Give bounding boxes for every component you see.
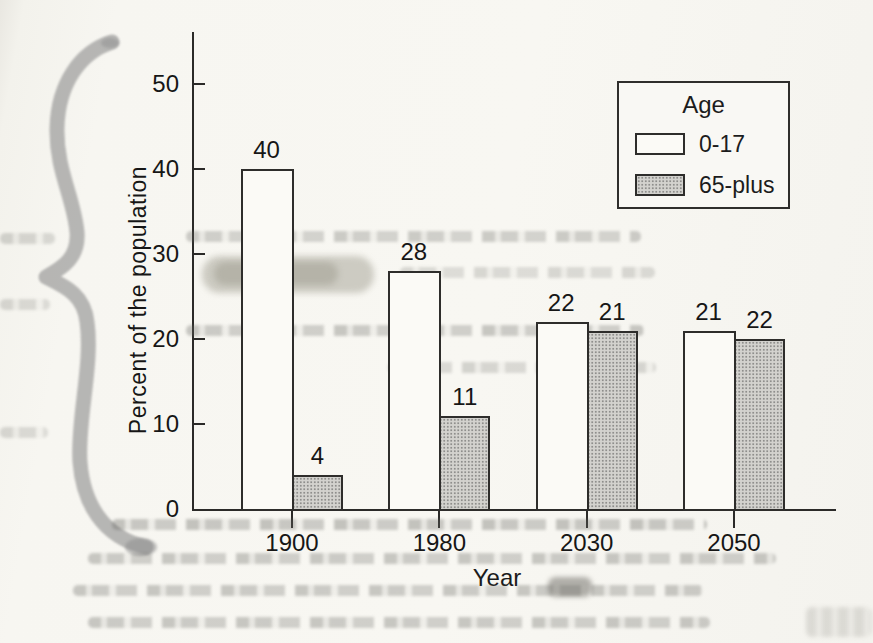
x-tick-1900 (291, 511, 293, 528)
y-tick-label-0: 0 (131, 495, 179, 523)
x-category-label-2030: 2030 (527, 529, 647, 557)
legend-label-0-17: 0-17 (699, 131, 745, 158)
bar-0-17-2050 (683, 331, 736, 512)
y-tick-20 (193, 338, 205, 340)
dark-smudge (548, 577, 592, 597)
y-tick-40 (193, 168, 205, 170)
x-category-label-1900: 1900 (232, 529, 352, 557)
bar-0-17-1980 (388, 271, 441, 511)
legend-swatch-0-17 (635, 133, 685, 155)
bar-65-plus-2030 (585, 331, 638, 512)
bar-65-plus-2050 (732, 339, 785, 511)
bar-value-label-65-plus-1980: 11 (435, 383, 495, 411)
bar-0-17-1900 (241, 169, 294, 511)
legend-entry-0-17: 0-17 (635, 133, 788, 155)
y-axis-title: Percent of the population (125, 166, 152, 434)
bottom-right-bleedthrough-blob (806, 607, 872, 637)
bar-value-label-0-17-1980: 28 (384, 238, 444, 266)
bar-0-17-2030 (536, 322, 589, 511)
x-tick-1980 (438, 511, 440, 528)
x-category-label-2050: 2050 (674, 529, 794, 557)
x-tick-2030 (586, 511, 588, 528)
bar-65-plus-1980 (437, 416, 490, 512)
y-tick-label-50: 50 (131, 70, 179, 98)
x-tick-2050 (733, 511, 735, 528)
legend-title: Age (619, 91, 788, 119)
bar-65-plus-1900 (290, 475, 343, 511)
y-tick-30 (193, 253, 205, 255)
y-tick-50 (193, 83, 205, 85)
bar-value-label-65-plus-2050: 22 (729, 306, 789, 334)
legend-swatch-65-plus (635, 174, 685, 196)
legend: Age 0-17 65-plus (617, 81, 790, 209)
bar-value-label-65-plus-2030: 21 (582, 298, 642, 326)
x-axis-title: Year (437, 564, 557, 592)
y-tick-10 (193, 423, 205, 425)
legend-label-65-plus: 65-plus (699, 172, 774, 199)
legend-entry-65-plus: 65-plus (635, 174, 788, 196)
bar-value-label-0-17-1900: 40 (237, 136, 297, 164)
bar-value-label-65-plus-1900: 4 (288, 442, 348, 470)
y-axis (192, 32, 194, 511)
x-category-label-1980: 1980 (379, 529, 499, 557)
scanned-page: 0102030405040419002811198022212030212220… (0, 0, 873, 643)
